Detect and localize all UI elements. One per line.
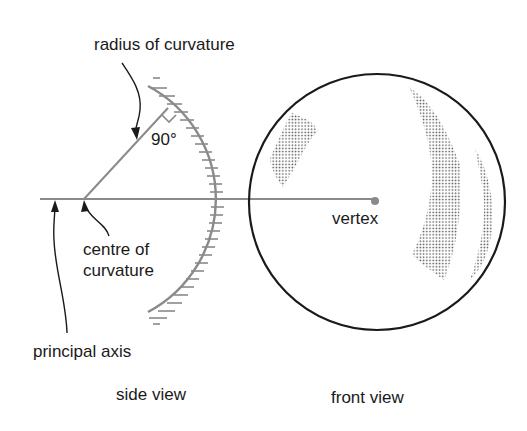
principal-axis-arrow [54, 205, 67, 333]
radius-line [84, 108, 168, 199]
reflection-highlight-right [470, 148, 493, 280]
reflection-highlight-left [270, 113, 318, 187]
mirror-hatching [149, 78, 224, 324]
reflection-highlight-center [409, 87, 461, 280]
concave-mirror-diagram: 90° radius of curvature centre of curvat… [0, 0, 527, 431]
angle-label: 90° [151, 130, 177, 149]
centre-label-line1: centre of [83, 240, 149, 259]
principal-axis-arrowhead [51, 200, 59, 212]
centre-label-line2: curvature [83, 261, 154, 280]
vertex-point [371, 197, 379, 205]
right-angle-marker [162, 115, 176, 122]
radius-arrow [122, 63, 140, 135]
front-view: vertex front view [249, 74, 505, 407]
radius-label: radius of curvature [94, 35, 235, 54]
vertex-label: vertex [332, 209, 379, 228]
radius-arrowhead [131, 127, 140, 140]
centre-arrow [85, 205, 109, 236]
centre-arrowhead [81, 200, 89, 212]
front-view-label: front view [331, 388, 404, 407]
principal-axis-label: principal axis [33, 342, 131, 361]
side-view: 90° radius of curvature centre of curvat… [33, 35, 375, 404]
side-view-label: side view [116, 385, 187, 404]
